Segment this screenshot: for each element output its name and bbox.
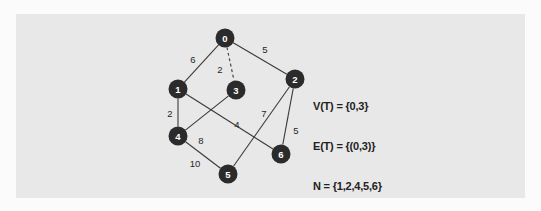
graph-edge-3-4 — [185, 96, 228, 130]
graph-node-2[interactable]: 2 — [286, 70, 305, 89]
node-label-0: 0 — [222, 33, 227, 44]
graph-node-6[interactable]: 6 — [272, 145, 291, 164]
annotation-line-remaining-nodes: N = {1,2,4,5,6} — [313, 180, 382, 193]
graph-node-0[interactable]: 0 — [216, 29, 235, 48]
edge-weight-2-5: 7 — [261, 108, 266, 119]
figure-root: 0123456 6522487510 V(T) = {0,3} E(T) = {… — [0, 0, 541, 211]
graph-edge-2-6 — [283, 88, 294, 144]
edge-weight-1-6: 4 — [234, 119, 239, 130]
graph-edge-0-2 — [233, 43, 287, 74]
node-label-1: 1 — [175, 84, 181, 95]
annotation-text-block: V(T) = {0,3} E(T) = {(0,3)} N = {1,2,4,5… — [313, 74, 382, 211]
node-label-6: 6 — [278, 149, 283, 160]
graph-canvas: 0123456 6522487510 — [0, 0, 541, 211]
annotation-line-vertex-set: V(T) = {0,3} — [313, 100, 382, 113]
node-label-3: 3 — [233, 85, 238, 96]
edge-weight-0-1: 6 — [190, 54, 195, 65]
edge-weight-2-6: 5 — [293, 125, 298, 136]
edge-weight-0-2: 5 — [262, 44, 267, 55]
edge-weight-1-4: 2 — [167, 108, 172, 119]
node-label-2: 2 — [292, 74, 297, 85]
graph-node-5[interactable]: 5 — [219, 165, 238, 184]
graph-node-4[interactable]: 4 — [169, 127, 188, 146]
edge-weight-0-3: 2 — [217, 64, 222, 75]
node-label-4: 4 — [175, 131, 181, 142]
graph-node-1[interactable]: 1 — [169, 80, 188, 99]
edge-weight-4-5: 10 — [190, 158, 201, 169]
graph-edge-0-3 — [227, 47, 234, 80]
edge-weight-3-4: 8 — [198, 135, 203, 146]
node-label-5: 5 — [225, 169, 231, 180]
graph-node-3[interactable]: 3 — [227, 81, 246, 100]
annotation-line-edge-set: E(T) = {(0,3)} — [313, 140, 382, 153]
